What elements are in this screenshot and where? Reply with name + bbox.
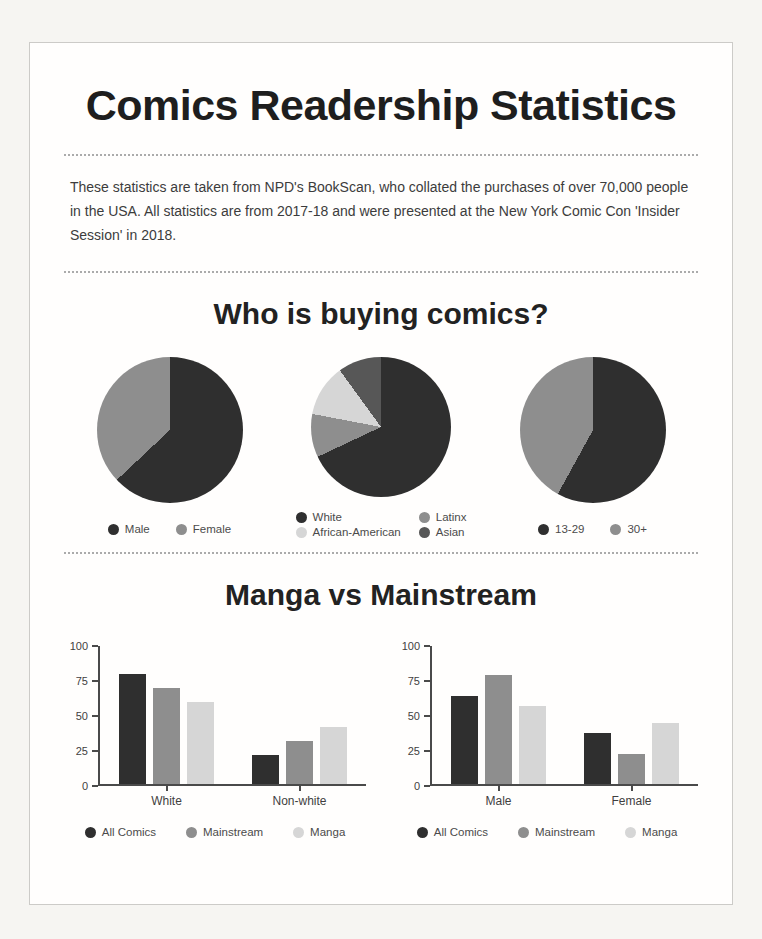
intro-paragraph: These statistics are taken from NPD's Bo…	[70, 176, 692, 247]
x-tick-mark	[498, 786, 500, 791]
bar-all-comics	[252, 755, 279, 784]
legend-label: White	[313, 511, 342, 523]
legend-item: 13-29	[538, 523, 584, 535]
legend-item: Manga	[625, 826, 677, 838]
x-tick-mark	[299, 786, 301, 791]
legend-item: Manga	[293, 826, 345, 838]
bar-all-comics	[119, 674, 146, 785]
legend-dot-icon	[293, 827, 304, 838]
legend-dot-icon	[610, 524, 621, 535]
gender-pie-legend: MaleFemale	[108, 523, 231, 535]
bar-charts-row: 0255075100 WhiteNon-white All ComicsMain…	[64, 638, 698, 838]
pie-charts-row: MaleFemale WhiteLatinxAfrican-AmericanAs…	[64, 357, 698, 538]
bar-manga	[652, 723, 679, 785]
x-category: Female	[565, 786, 698, 808]
y-tick-label: 0	[82, 779, 88, 793]
gender-bar-chart: 0255075100	[396, 638, 698, 786]
infographic-card: Comics Readership Statistics These stati…	[29, 42, 733, 905]
dotted-divider	[64, 154, 698, 156]
bar-all-comics	[451, 696, 478, 784]
bar-group	[233, 727, 366, 784]
x-category-label: Non-white	[233, 794, 366, 808]
bar-mainstream	[618, 754, 645, 785]
plot-area	[430, 646, 698, 786]
bar-groups	[432, 646, 698, 784]
dotted-divider	[64, 271, 698, 273]
legend-dot-icon	[296, 512, 307, 523]
page-title: Comics Readership Statistics	[64, 81, 698, 130]
y-tick-label: 50	[408, 709, 420, 723]
legend-label: All Comics	[434, 826, 488, 838]
bar-group	[100, 674, 233, 785]
legend-label: Male	[125, 523, 150, 535]
legend-dot-icon	[417, 827, 428, 838]
race-bar-legend: All ComicsMainstreamManga	[64, 826, 366, 838]
bar-group	[565, 723, 698, 785]
legend-item: Female	[176, 523, 231, 535]
y-axis: 0255075100	[64, 646, 98, 786]
x-category-label: Male	[432, 794, 565, 808]
bar-groups	[100, 646, 366, 784]
y-tick-label: 75	[408, 674, 420, 688]
legend-dot-icon	[419, 527, 430, 538]
gender-bar-chart-figure: 0255075100 MaleFemale All ComicsMainstre…	[396, 638, 698, 838]
legend-item: All Comics	[85, 826, 156, 838]
section-title-manga-vs-mainstream: Manga vs Mainstream	[64, 578, 698, 612]
race-bar-chart: 0255075100	[64, 638, 366, 786]
x-category: Non-white	[233, 786, 366, 808]
gender-bar-legend: All ComicsMainstreamManga	[396, 826, 698, 838]
legend-item: Asian	[419, 526, 467, 538]
legend-item: 30+	[610, 523, 647, 535]
legend-label: Mainstream	[535, 826, 595, 838]
y-tick-label: 25	[408, 744, 420, 758]
age-pie-legend: 13-2930+	[538, 523, 647, 535]
bar-manga	[519, 706, 546, 784]
y-tick-label: 75	[76, 674, 88, 688]
legend-item: Male	[108, 523, 150, 535]
ethnicity-pie-chart	[311, 357, 451, 497]
legend-label: Mainstream	[203, 826, 263, 838]
y-tick-label: 0	[414, 779, 420, 793]
gender-pie-figure: MaleFemale	[64, 357, 275, 535]
y-tick-label: 25	[76, 744, 88, 758]
legend-label: Female	[193, 523, 231, 535]
bar-mainstream	[485, 675, 512, 784]
legend-dot-icon	[419, 512, 430, 523]
x-category: White	[100, 786, 233, 808]
age-pie-figure: 13-2930+	[487, 357, 698, 535]
legend-dot-icon	[85, 827, 96, 838]
x-category-label: White	[100, 794, 233, 808]
bar-group	[432, 675, 565, 784]
legend-dot-icon	[186, 827, 197, 838]
bar-mainstream	[153, 688, 180, 785]
y-tick-label: 100	[70, 639, 88, 653]
bar-mainstream	[286, 741, 313, 784]
gender-pie-chart	[97, 357, 243, 503]
legend-label: 30+	[627, 523, 647, 535]
legend-dot-icon	[625, 827, 636, 838]
section-title-who-is-buying: Who is buying comics?	[64, 297, 698, 331]
x-axis-labels: MaleFemale	[432, 786, 698, 808]
legend-label: Manga	[642, 826, 677, 838]
ethnicity-pie-figure: WhiteLatinxAfrican-AmericanAsian	[276, 357, 487, 538]
legend-label: Manga	[310, 826, 345, 838]
legend-item: All Comics	[417, 826, 488, 838]
ethnicity-pie-legend: WhiteLatinxAfrican-AmericanAsian	[296, 511, 467, 538]
x-category-label: Female	[565, 794, 698, 808]
bar-manga	[187, 702, 214, 785]
legend-label: Asian	[436, 526, 465, 538]
legend-item: Latinx	[419, 511, 467, 523]
x-axis-labels: WhiteNon-white	[100, 786, 366, 808]
y-tick-label: 100	[402, 639, 420, 653]
legend-item: Mainstream	[186, 826, 263, 838]
age-pie-chart	[520, 357, 666, 503]
x-tick-mark	[166, 786, 168, 791]
bar-all-comics	[584, 733, 611, 785]
legend-dot-icon	[176, 524, 187, 535]
legend-item: White	[296, 511, 401, 523]
legend-label: 13-29	[555, 523, 584, 535]
y-tick-label: 50	[76, 709, 88, 723]
race-bar-chart-figure: 0255075100 WhiteNon-white All ComicsMain…	[64, 638, 366, 838]
legend-label: African-American	[313, 526, 401, 538]
legend-label: Latinx	[436, 511, 467, 523]
